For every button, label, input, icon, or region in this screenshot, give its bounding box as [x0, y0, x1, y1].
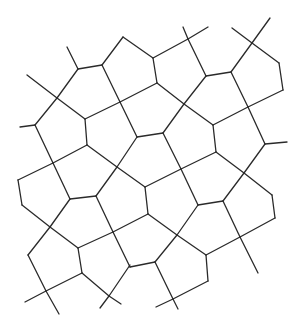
tile-edge [123, 37, 153, 58]
tile-edge [231, 72, 248, 107]
tile-edge [57, 69, 78, 98]
tile-edge [248, 90, 283, 107]
tile-edge [130, 262, 155, 267]
tile-edge [96, 167, 117, 196]
tile-edge [155, 262, 173, 299]
tile-edge [223, 173, 244, 201]
tile-edge [113, 214, 148, 232]
tile-edge [177, 235, 206, 255]
tile-edge [206, 237, 240, 255]
tile-edge [173, 299, 178, 309]
tile-edge [145, 169, 181, 187]
tiling-diagram [0, 0, 301, 332]
tile-edge [22, 205, 50, 227]
tile-edge [279, 63, 283, 90]
tile-edge [50, 227, 78, 248]
tile-edge [157, 83, 184, 104]
tile-edge [50, 199, 70, 227]
tile-edge [244, 144, 265, 173]
tile-edge [102, 37, 123, 65]
tile-edge [109, 265, 130, 296]
tile-edge [240, 237, 258, 273]
tile-edge [113, 232, 130, 267]
tile-edge [156, 299, 173, 307]
tile-edge [137, 133, 163, 137]
tile-edge [216, 152, 244, 173]
tile-edge [183, 27, 188, 39]
tile-edge [46, 273, 82, 291]
tile-edge [28, 255, 46, 291]
tile-edge [85, 102, 120, 119]
tile-edge [188, 39, 206, 76]
tile-edge [188, 27, 208, 39]
tile-edge [57, 98, 85, 119]
tile-edge [78, 65, 102, 69]
tile-edge [35, 98, 57, 125]
tile-edge [252, 43, 279, 63]
tile-edge [46, 291, 59, 314]
tile-edge [20, 125, 35, 127]
tile-edge [35, 125, 53, 163]
tile-edge [18, 180, 22, 205]
tile-edge [184, 76, 206, 104]
tile-edge [53, 163, 70, 199]
tile-edge [153, 39, 188, 58]
tile-edge [78, 232, 113, 248]
tile-edge [177, 205, 198, 235]
tile-edge [120, 102, 137, 137]
tile-edge [232, 28, 252, 43]
tile-edge [213, 107, 248, 125]
tile-edge [85, 119, 87, 145]
tile-edge [206, 255, 208, 281]
tile-edge [87, 145, 117, 167]
tile-edge [252, 18, 270, 43]
tile-edge [163, 133, 181, 169]
tile-edge [78, 248, 82, 273]
tile-edge [117, 167, 145, 187]
tile-edge [109, 296, 121, 304]
tile-edge [163, 104, 184, 133]
tile-edge [213, 125, 216, 152]
tile-edge [82, 273, 109, 296]
tile-edge [18, 163, 53, 180]
tile-edge [198, 201, 223, 205]
tile-edge [240, 218, 275, 237]
tile-edge [181, 152, 216, 169]
tile-edge [206, 72, 231, 76]
tile-edge [100, 296, 109, 308]
tile-edge [67, 47, 78, 69]
tile-edge [265, 142, 287, 144]
tile-edge [155, 235, 177, 262]
tile-edge [181, 169, 198, 205]
tile-edge [184, 104, 213, 125]
tile-edge [27, 75, 57, 98]
tile-edge [117, 137, 137, 167]
tile-edge [28, 227, 50, 255]
tile-edge [272, 195, 275, 218]
tile-edge [145, 187, 148, 214]
tile-edge [148, 214, 177, 235]
tile-edge [96, 196, 113, 232]
tile-edge [120, 83, 157, 102]
tile-edge [173, 281, 208, 299]
tile-edge [244, 173, 272, 195]
tile-edge [25, 291, 46, 302]
tile-edge [70, 196, 96, 199]
tile-edge [248, 107, 265, 144]
pentagonal-tiling-drawing [0, 0, 301, 332]
tile-edge [223, 201, 240, 237]
tile-edge [153, 58, 157, 83]
tile-edge [231, 43, 252, 72]
tile-edge [102, 65, 120, 102]
tile-edge [53, 145, 87, 163]
